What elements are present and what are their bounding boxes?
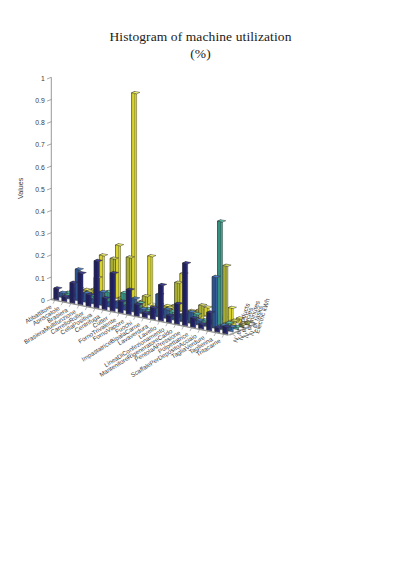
value-axis-title-text: Values	[16, 177, 25, 199]
value-axis-tick-label: 0.3	[35, 230, 45, 237]
bar-face-side	[212, 275, 215, 327]
category-axis-tick	[158, 321, 160, 324]
value-axis-tick-label: 0.8	[35, 119, 45, 126]
category-axis-tick	[109, 312, 111, 315]
bar-face-side	[183, 262, 186, 326]
category-axis-tick	[214, 333, 216, 336]
value-axis-tick	[47, 100, 51, 102]
category-axis-tick	[206, 331, 208, 334]
value-axis-tick-label: 0.6	[35, 164, 45, 171]
bar-face-side	[218, 220, 221, 326]
category-axis-tick	[166, 323, 168, 326]
value-axis-tick	[47, 188, 51, 190]
bars-layer	[54, 91, 253, 334]
value-axis-tick-label: 0.1	[35, 275, 45, 282]
value-axis-tick-label: 0.2	[35, 252, 45, 259]
value-axis-tick	[47, 233, 51, 235]
value-axis-tick	[47, 255, 51, 257]
bar-face-side	[78, 272, 81, 304]
value-axis-tick	[47, 166, 51, 168]
bar-face-side	[223, 264, 226, 323]
category-axis-tick	[93, 309, 95, 312]
bar-face-side	[199, 304, 202, 319]
figure-canvas: Histogram of machine utilization (%) 00.…	[0, 0, 401, 562]
category-axis-tick	[190, 328, 192, 331]
category-axis-tick	[101, 310, 103, 313]
bar-face-side	[116, 244, 119, 299]
category-axis-tick	[174, 325, 176, 328]
bar-face-side	[207, 311, 210, 330]
bar-face-side	[228, 306, 231, 321]
value-axis-title: Values	[16, 177, 25, 199]
value-axis-tick-label: 0.9	[35, 97, 45, 104]
category-axis-tick	[150, 320, 152, 323]
bar-face-side	[70, 281, 73, 302]
category-axis-tick	[61, 302, 63, 305]
category-axis-tick	[142, 318, 144, 321]
value-axis-tick-label: 0	[41, 297, 45, 304]
category-axis-tick	[198, 330, 200, 333]
value-axis-tick-label: 0.4	[35, 208, 45, 215]
value-axis-tick	[47, 77, 51, 79]
value-axis-tick-label: 0.5	[35, 186, 45, 193]
category-axis-tick	[117, 313, 119, 316]
category-axis-tick	[85, 307, 87, 310]
category-axis-tick	[77, 305, 79, 308]
value-axis-tick	[47, 144, 51, 146]
value-axis-tick-label: 0.7	[35, 141, 45, 148]
bar-face-side	[94, 259, 97, 307]
category-axis-tick	[126, 315, 128, 318]
value-axis: 00.10.20.30.40.50.60.70.80.91	[35, 75, 51, 304]
bar-face-side	[132, 91, 135, 301]
value-axis-tick	[47, 122, 51, 124]
category-axis-tick	[222, 334, 224, 337]
bar-face-side	[126, 288, 129, 314]
value-axis-tick	[47, 277, 51, 279]
value-axis-tick-label: 1	[41, 75, 45, 82]
bar-face-side	[110, 271, 113, 310]
category-axis-tick	[69, 304, 71, 307]
bar3-plot: 00.10.20.30.40.50.60.70.80.91 Abbattitor…	[0, 0, 401, 562]
bar-face-side	[159, 283, 162, 320]
category-axis-tick	[134, 317, 136, 320]
bar-face-side	[175, 302, 178, 323]
category-axis-tick	[53, 300, 55, 303]
category-axis-tick	[182, 326, 184, 329]
value-axis-tick	[47, 211, 51, 213]
bar-face-side	[148, 255, 151, 305]
